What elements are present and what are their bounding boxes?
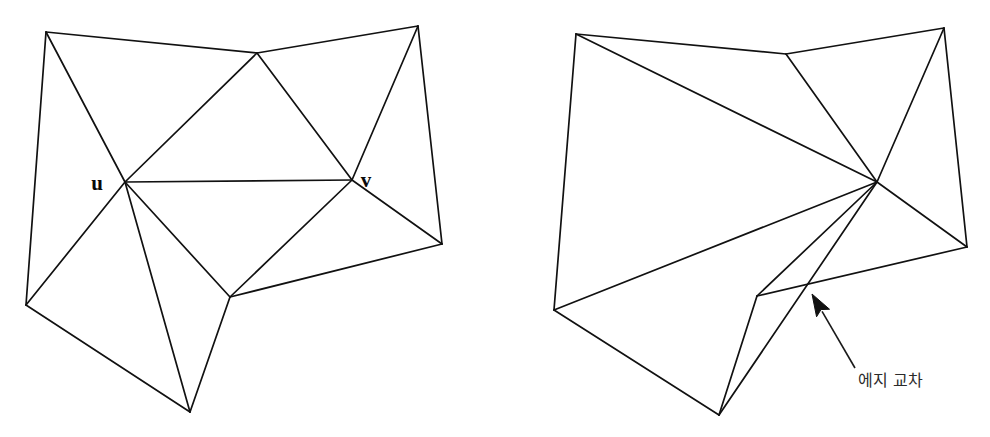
mesh-edge-right bbox=[554, 182, 877, 310]
annotation-arrow-head bbox=[812, 294, 830, 317]
mesh-edge-right bbox=[877, 28, 944, 182]
mesh-edge-left bbox=[418, 26, 442, 244]
figure-canvas: uv 에지 교차 bbox=[0, 0, 990, 437]
mesh-edge-right bbox=[757, 247, 967, 296]
mesh-edge-left bbox=[257, 26, 418, 53]
edge-crossing-annotation: 에지 교차 bbox=[812, 294, 923, 390]
mesh-edge-right bbox=[786, 54, 877, 182]
mesh-edge-left bbox=[230, 244, 442, 297]
mesh-edge-left bbox=[125, 180, 352, 182]
left-diagram: uv bbox=[26, 26, 442, 412]
figure-root: uv 에지 교차 bbox=[0, 0, 990, 437]
vertex-label-v: v bbox=[361, 168, 372, 192]
mesh-edge-left bbox=[352, 26, 418, 180]
mesh-edge-right bbox=[944, 28, 967, 247]
mesh-edge-left bbox=[46, 32, 257, 53]
mesh-edge-right bbox=[719, 182, 877, 415]
edge-crossing-label: 에지 교차 bbox=[858, 371, 923, 390]
mesh-edge-right bbox=[554, 34, 576, 310]
mesh-edge-left bbox=[125, 53, 257, 182]
mesh-edge-left bbox=[230, 180, 352, 297]
mesh-edge-left bbox=[190, 297, 230, 412]
mesh-edge-right bbox=[877, 182, 967, 247]
right-diagram bbox=[554, 28, 967, 415]
mesh-edge-right bbox=[576, 34, 877, 182]
mesh-edge-right bbox=[576, 34, 786, 54]
mesh-edge-left bbox=[26, 32, 46, 305]
mesh-edge-left bbox=[257, 53, 352, 180]
mesh-edge-left bbox=[26, 182, 125, 305]
mesh-edge-right bbox=[757, 182, 877, 296]
vertex-label-u: u bbox=[91, 171, 103, 195]
mesh-edge-left bbox=[26, 305, 190, 412]
annotation-leader-line bbox=[822, 311, 855, 368]
mesh-edge-left bbox=[46, 32, 125, 182]
mesh-edge-right bbox=[786, 28, 944, 54]
mesh-edge-right bbox=[719, 296, 757, 415]
mesh-edge-right bbox=[554, 310, 719, 415]
